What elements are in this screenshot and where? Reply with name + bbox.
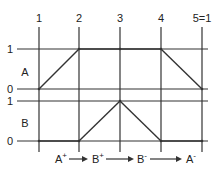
trace-node — [78, 48, 81, 51]
step-label: 5=1 — [193, 12, 212, 24]
step-label: 1 — [36, 12, 42, 24]
step-label: 4 — [158, 12, 164, 24]
level-label-low: 0 — [7, 83, 13, 95]
displacement-step-diagram: 12345=110A10B A+B+B-A- — [0, 0, 214, 171]
sequence-arrow-head-icon — [128, 156, 134, 162]
level-label-high: 1 — [7, 95, 13, 107]
trace-node — [160, 48, 163, 51]
actuator-trace-segment — [120, 101, 161, 141]
trace-node — [201, 140, 204, 143]
actuator-trace-segment — [79, 101, 120, 141]
trace-node — [160, 140, 163, 143]
actuator-label: A — [21, 66, 29, 78]
step-label: 3 — [117, 12, 123, 24]
level-label-low: 0 — [7, 135, 13, 147]
sequence-arrow-head-icon — [176, 156, 182, 162]
level-label-high: 1 — [7, 43, 13, 55]
sequence-step: B- — [137, 151, 147, 165]
step-label: 2 — [76, 12, 82, 24]
sequence-step: B+ — [92, 151, 104, 165]
sequence-step: A- — [186, 151, 196, 165]
sequence-step: A+ — [55, 151, 67, 165]
trace-node — [119, 100, 122, 103]
actuator-trace-segment — [161, 49, 202, 89]
trace-node — [38, 140, 41, 143]
trace-node — [38, 88, 41, 91]
actuator-trace-segment — [39, 49, 79, 89]
trace-node — [201, 88, 204, 91]
sequence-arrow-head-icon — [82, 156, 88, 162]
trace-node — [119, 48, 122, 51]
actuator-label: B — [21, 117, 28, 129]
trace-node — [78, 140, 81, 143]
